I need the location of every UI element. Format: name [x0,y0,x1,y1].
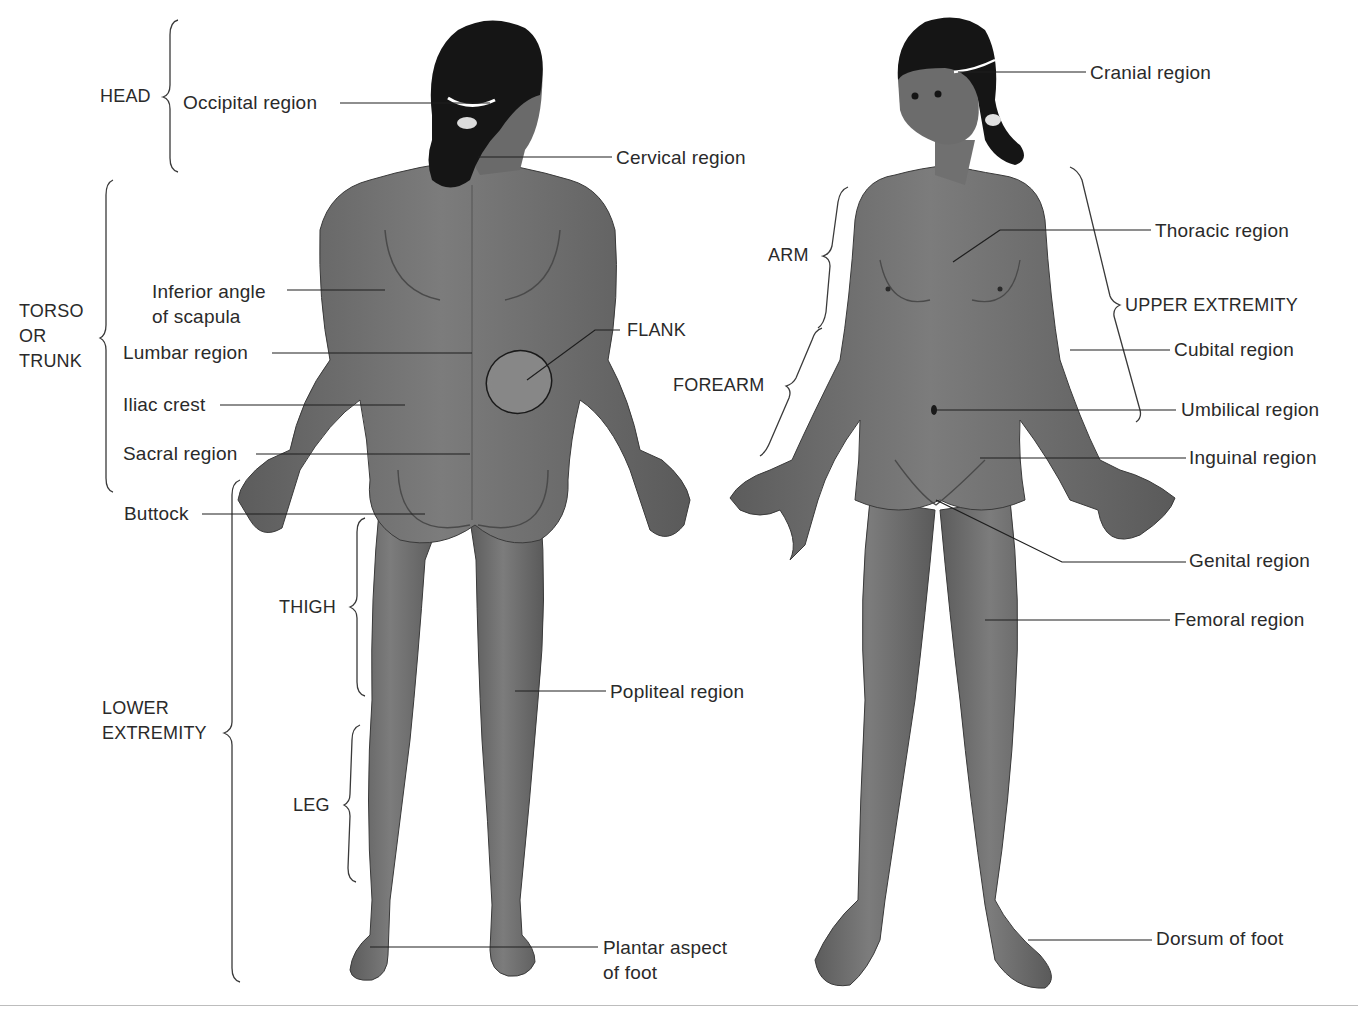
bottom-divider [0,1005,1358,1006]
label-inguinal-region: Inguinal region [1189,446,1317,470]
label-umbilical-region: Umbilical region [1181,398,1319,422]
group-label-head: HEAD [100,84,151,108]
label-cranial-region: Cranial region [1090,61,1211,85]
group-label-flank: FLANK [627,318,686,342]
label-thoracic-region: Thoracic region [1155,219,1289,243]
group-label-leg: LEG [293,793,330,817]
label-dorsum-of-foot: Dorsum of foot [1156,927,1283,951]
group-label-lower-extremity: LOWER EXTREMITY [102,696,207,746]
label-plantar-aspect-of-foot: Plantar aspect of foot [603,935,727,985]
group-label-arm: ARM [768,243,809,267]
label-cubital-region: Cubital region [1174,338,1294,362]
label-iliac-crest: Iliac crest [123,393,205,417]
group-label-thigh: THIGH [279,595,336,619]
label-sacral-region: Sacral region [123,442,238,466]
label-lumbar-region: Lumbar region [123,341,248,365]
label-inferior-angle-of-scapula: Inferior angle of scapula [152,279,266,329]
group-label-forearm: FOREARM [673,373,764,397]
label-genital-region: Genital region [1189,549,1310,573]
label-buttock: Buttock [124,502,189,526]
group-label-upper-extremity: UPPER EXTREMITY [1125,293,1298,317]
label-femoral-region: Femoral region [1174,608,1305,632]
group-label-torso: TORSO OR TRUNK [19,299,84,374]
anterior-figure [730,18,1175,989]
label-occipital-region: Occipital region [183,91,317,115]
body-regions-diagram: HEAD TORSO OR TRUNK LOWER EXTREMITY THIG… [0,0,1358,1020]
label-cervical-region: Cervical region [616,146,746,170]
label-popliteal-region: Popliteal region [610,680,744,704]
